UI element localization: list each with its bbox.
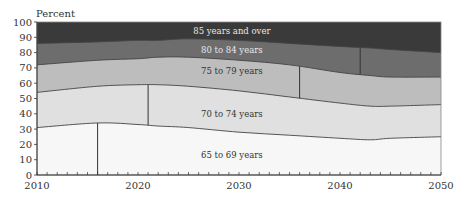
y-tick-label: 0 — [26, 170, 32, 181]
y-tick-label: 30 — [19, 124, 32, 135]
y-tick-label: 80 — [19, 47, 32, 58]
y-tick-label: 20 — [19, 139, 32, 150]
band-label: 85 years and over — [193, 26, 271, 36]
y-tick-label: 10 — [19, 154, 32, 165]
band-label: 75 to 79 years — [201, 66, 263, 76]
x-tick-label: 2050 — [428, 180, 453, 191]
band-label: 80 to 84 years — [201, 45, 263, 55]
y-tick-label: 40 — [19, 108, 32, 119]
y-tick-label: 70 — [19, 62, 32, 73]
y-axis-label: Percent — [36, 8, 75, 19]
band-label: 65 to 69 years — [201, 150, 263, 160]
stacked-area-chart: Percent 85 years and over80 to 84 years7… — [0, 0, 468, 201]
y-tick-label: 100 — [13, 17, 32, 28]
band-label: 70 to 74 years — [201, 109, 263, 119]
x-tick-label: 2040 — [327, 180, 352, 191]
x-tick-label: 2020 — [125, 180, 150, 191]
y-tick-label: 60 — [19, 78, 32, 89]
y-tick-label: 90 — [19, 32, 32, 43]
x-tick-label: 2010 — [24, 180, 49, 191]
x-tick-label: 2030 — [226, 180, 251, 191]
y-tick-label: 50 — [19, 93, 32, 104]
